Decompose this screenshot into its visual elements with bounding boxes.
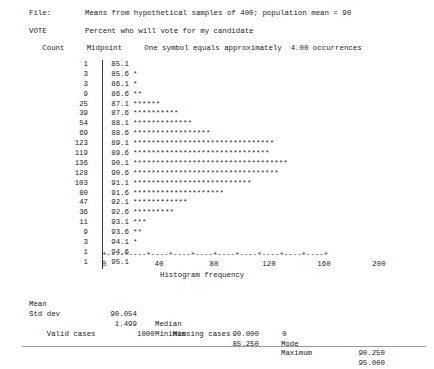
histogram-count: 128	[29, 169, 88, 179]
statistics-row-1: Mean 90.054 Median 90.000 Mode 90.250	[29, 290, 419, 300]
histogram-midpoint: 86.1	[97, 80, 129, 90]
maximum-label: Maximum	[281, 349, 339, 359]
histogram-bar: ************	[133, 198, 188, 208]
histogram-midpoint: 89.6	[97, 149, 129, 159]
histogram-count: 39	[29, 109, 88, 119]
histogram-count: 1	[29, 60, 88, 70]
histogram-midpoint: 88.1	[97, 119, 129, 129]
histogram-midpoint: 93.6	[97, 228, 129, 238]
histogram-row: 6988.6*****************	[29, 129, 429, 139]
histogram-midpoint: 86.6	[97, 90, 129, 100]
histogram-row: 3987.6**********	[29, 109, 429, 119]
histogram-bar: **********	[133, 109, 179, 119]
histogram-count: 25	[29, 100, 88, 110]
variable-name: VOTE	[29, 27, 85, 37]
histogram-row: 12890.6********************************	[29, 169, 429, 179]
column-header-row: Count Midpoint One symbol equals approxi…	[29, 44, 362, 54]
histogram-row: 4792.1************	[29, 198, 429, 208]
x-axis-tick-label: 120	[262, 260, 275, 270]
histogram-count: 9	[29, 90, 88, 100]
histogram-bar: *	[133, 238, 138, 248]
histogram-midpoint: 88.6	[97, 129, 129, 139]
histogram-rows: 185.1385.6*386.1*986.6**2587.1******3987…	[29, 60, 429, 268]
histogram-count: 1	[29, 248, 88, 258]
histogram-bar: *******************************	[133, 139, 274, 149]
histogram-row: 993.6**	[29, 228, 429, 238]
histogram-midpoint: 94.1	[97, 238, 129, 248]
variable-line: VOTEPercent who will vote for my candida…	[29, 27, 429, 37]
histogram-midpoint: 93.1	[97, 218, 129, 228]
histogram-row: 13690.1*********************************…	[29, 159, 429, 169]
x-axis-tick-label: 200	[372, 260, 385, 270]
histogram-bar: *********	[133, 208, 174, 218]
histogram-x-axis: +----+----+----+----+----+----+----+----…	[102, 250, 402, 270]
histogram-count: 136	[29, 159, 88, 169]
histogram-midpoint: 90.6	[97, 169, 129, 179]
histogram-bar: **********************************	[133, 159, 288, 169]
valid-cases-value: 1000	[105, 330, 155, 340]
histogram-count: 36	[29, 208, 88, 218]
x-axis-tick-labels: 04080120160200	[102, 260, 402, 270]
statistics-block: Mean 90.054 Median 90.000 Mode 90.250 St…	[29, 290, 419, 310]
stddev-label: Std dev	[29, 310, 87, 320]
histogram-row: 8091.6********************	[29, 189, 429, 199]
histogram-midpoint: 89.1	[97, 139, 129, 149]
histogram-row: 10391.1**************************	[29, 179, 429, 189]
x-axis-title: Histogram frequency	[160, 271, 244, 281]
histogram-count: 1	[29, 258, 88, 268]
file-description: Means from hypothetical samples of 400; …	[85, 9, 351, 17]
histogram-count: 69	[29, 129, 88, 139]
missing-cases-label: Missing cases	[155, 330, 247, 340]
histogram-count: 80	[29, 189, 88, 199]
histogram-bar: **	[133, 90, 142, 100]
file-label: File:	[29, 9, 85, 19]
histogram-bar: **************************	[133, 179, 251, 189]
frequency-output-page: File:Means from hypothetical samples of …	[0, 0, 434, 369]
mode-value: 90.250	[333, 349, 385, 359]
report-header: File:Means from hypothetical samples of …	[29, 9, 429, 37]
valid-cases-label: Valid cases	[47, 330, 105, 340]
histogram-row: 385.6*	[29, 70, 429, 80]
histogram-row: 11989.6******************************	[29, 149, 429, 159]
histogram-bar: ********************	[133, 189, 224, 199]
histogram-count: 9	[29, 228, 88, 238]
histogram-count: 54	[29, 119, 88, 129]
histogram-bar: ******************************	[133, 149, 270, 159]
histogram-count: 123	[29, 139, 88, 149]
histogram-midpoint: 87.1	[97, 100, 129, 110]
histogram-row: 3692.6*********	[29, 208, 429, 218]
x-axis-tickmarks: +----+----+----+----+----+----+----+----…	[102, 250, 402, 260]
histogram-count: 119	[29, 149, 88, 159]
histogram-row: 986.6**	[29, 90, 429, 100]
variable-description: Percent who will vote for my candidate	[85, 27, 254, 35]
histogram-midpoint: 92.6	[97, 208, 129, 218]
x-axis-tick-label: 40	[155, 260, 164, 270]
histogram-row: 185.1	[29, 60, 429, 70]
histogram-bar: ******	[133, 100, 160, 110]
histogram-row: 386.1*	[29, 80, 429, 90]
histogram-midpoint: 87.6	[97, 109, 129, 119]
histogram-row: 1193.1***	[29, 218, 429, 228]
histogram-count: 3	[29, 70, 88, 80]
footer-divider	[22, 346, 426, 347]
statistics-row-2: Std dev 1.499 Minimum 85.250 Maximum 95.…	[29, 300, 419, 310]
histogram-count: 103	[29, 179, 88, 189]
file-line: File:Means from hypothetical samples of …	[29, 9, 429, 19]
histogram-bar: *	[133, 70, 138, 80]
histogram-bar: ***	[133, 218, 147, 228]
histogram-midpoint: 85.6	[97, 70, 129, 80]
histogram-count: 3	[29, 238, 88, 248]
mode-label: Mode	[281, 340, 339, 350]
histogram-row: 2587.1******	[29, 100, 429, 110]
x-axis-tick-label: 80	[210, 260, 219, 270]
histogram-midpoint: 91.1	[97, 179, 129, 189]
histogram-bar: *************	[133, 119, 192, 129]
histogram-count: 3	[29, 80, 88, 90]
histogram-midpoint: 85.1	[97, 60, 129, 70]
histogram-bar: *****************	[133, 129, 210, 139]
x-axis-tick-label: 0	[102, 260, 106, 270]
histogram-bar: *	[133, 80, 138, 90]
histogram-row: 12389.1*******************************	[29, 139, 429, 149]
histogram-midpoint: 92.1	[97, 198, 129, 208]
histogram-bar: **	[133, 228, 142, 238]
